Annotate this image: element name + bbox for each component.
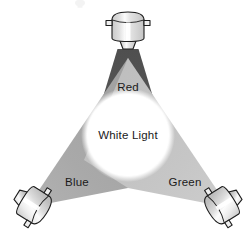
beam-label-red: Red <box>117 81 139 93</box>
diagram-canvas: Red White Light Blue Green <box>0 0 252 244</box>
color-mixing-diagram: Red White Light Blue Green <box>0 0 252 244</box>
beam-label-blue: Blue <box>65 176 89 188</box>
beam-label-green: Green <box>169 176 202 188</box>
center-label-white-light: White Light <box>98 129 158 141</box>
